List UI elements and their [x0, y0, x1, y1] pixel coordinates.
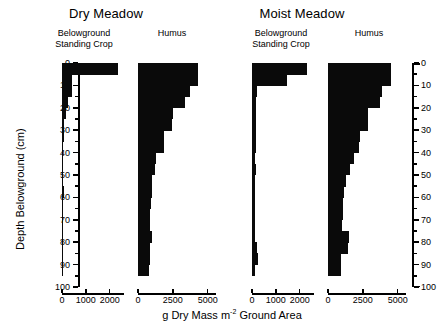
bar — [138, 153, 156, 165]
x-axis-tick — [172, 289, 174, 293]
bar — [328, 119, 368, 131]
bar — [328, 74, 391, 86]
y-axis-tick-label: 70 — [421, 215, 431, 225]
bar — [252, 63, 307, 75]
x-axis-tick — [137, 289, 139, 293]
bar — [252, 231, 255, 243]
bar — [138, 119, 172, 131]
y-axis-tick — [414, 174, 419, 176]
y-axis-title: Depth Belowground (cm) — [14, 128, 26, 250]
panel-moist-belowground-standing-crop: 010002000 — [252, 63, 314, 287]
bar — [138, 209, 150, 221]
y-axis-tick-label: 10 — [421, 80, 431, 90]
x-axis-tick-label: 0 — [249, 295, 254, 305]
bar — [252, 197, 255, 209]
x-axis-tick — [85, 289, 87, 293]
x-axis-tick-label: 2500 — [353, 295, 373, 305]
panel-dry-humus: 025005000 — [138, 63, 216, 287]
group-title-moist-meadow: Moist Meadow — [259, 7, 344, 20]
bar — [328, 130, 360, 142]
panel-title-moist-humus: Humus — [355, 29, 384, 38]
bar — [138, 63, 198, 75]
bar-series — [138, 63, 216, 287]
bar — [252, 108, 256, 120]
y-axis-tick — [414, 129, 419, 131]
bar — [62, 130, 64, 142]
bar — [252, 242, 257, 254]
panel-moist-humus: 025005000 — [328, 63, 406, 287]
bar — [328, 220, 342, 232]
figure-canvas: Depth Belowground (cm) Dry Meadow Moist … — [0, 0, 441, 333]
x-axis-tick-label: 0 — [325, 295, 330, 305]
x-axis-tick — [275, 289, 277, 293]
y-axis-tick — [414, 152, 419, 154]
x-axis-tick — [327, 289, 329, 293]
panel-title-dry-humus: Humus — [158, 29, 187, 38]
bar — [138, 97, 185, 109]
x-axis-title: g Dry Mass m-2 Ground Area — [162, 308, 302, 321]
bar — [62, 119, 64, 131]
panel-title-line2: Standing Crop — [252, 40, 310, 49]
y-axis-tick-label: 90 — [421, 260, 431, 270]
bar — [252, 74, 287, 86]
x-axis-tick — [251, 289, 253, 293]
bar-series — [252, 63, 314, 287]
group-title-dry-meadow: Dry Meadow — [69, 7, 143, 20]
bar — [252, 153, 255, 165]
y-axis-minor-tick — [414, 118, 417, 120]
bar — [62, 175, 63, 187]
bar — [62, 253, 63, 265]
bar — [328, 242, 348, 254]
bar — [138, 175, 152, 187]
bar — [328, 153, 354, 165]
bar — [328, 97, 380, 109]
y-axis-tick-label: 20 — [421, 103, 431, 113]
bar — [62, 63, 118, 75]
bar — [138, 141, 164, 153]
x-axis-title-prefix: g Dry Mass m — [162, 309, 230, 321]
bar — [138, 108, 173, 120]
y-axis-tick — [414, 264, 419, 266]
bar — [328, 141, 359, 153]
bar — [138, 186, 152, 198]
y-axis-tick — [414, 85, 419, 87]
panel-title-line1: Belowground — [252, 29, 310, 38]
bar — [62, 220, 63, 232]
y-axis-tick-label: 80 — [421, 237, 431, 247]
bar — [138, 265, 149, 277]
y-axis-right: 0102030405060708090100 — [412, 0, 440, 333]
panel-dry-belowground-standing-crop: 010002000 — [62, 63, 124, 287]
x-axis-tick-label: 5000 — [198, 295, 218, 305]
x-axis-tick — [61, 289, 63, 293]
bar — [328, 197, 343, 209]
x-axis-tick-label: 2000 — [100, 295, 120, 305]
bar — [252, 130, 256, 142]
y-axis-minor-tick — [414, 208, 417, 210]
bar — [328, 186, 344, 198]
y-axis-tick — [414, 197, 419, 199]
y-axis-cap — [414, 63, 420, 65]
bar — [328, 164, 350, 176]
y-axis-tick-label: 0 — [421, 58, 426, 68]
bar — [252, 97, 256, 109]
bar — [138, 242, 150, 254]
x-axis-tick — [362, 289, 364, 293]
bar — [62, 186, 64, 198]
bar — [252, 209, 255, 221]
bar — [328, 231, 349, 243]
bar — [62, 265, 63, 277]
y-axis-tick — [414, 219, 419, 221]
y-axis-minor-tick — [414, 73, 417, 75]
y-axis-tick-label: 60 — [421, 192, 431, 202]
bar — [252, 85, 257, 97]
x-axis-tick — [397, 289, 399, 293]
bar — [328, 265, 341, 277]
bar — [252, 253, 258, 265]
bar — [252, 220, 255, 232]
bar — [62, 85, 72, 97]
x-axis-tick — [207, 289, 209, 293]
bar — [62, 74, 72, 86]
bar — [138, 130, 164, 142]
x-axis-tick-label: 0 — [59, 295, 64, 305]
bar — [62, 242, 63, 254]
